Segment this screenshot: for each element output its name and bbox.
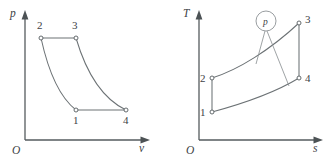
ts-callout-leader-right bbox=[267, 31, 289, 86]
ts-state-label-3: 3 bbox=[305, 13, 311, 25]
ts-callout-leader-left bbox=[256, 31, 265, 64]
pv-state-marker-2 bbox=[39, 36, 43, 40]
pv-state-label-4: 4 bbox=[123, 114, 129, 126]
figure-root: p v O 2 3 1 4 bbox=[0, 0, 333, 159]
ts-state-marker-3 bbox=[297, 21, 301, 25]
pv-process-3-4 bbox=[76, 38, 126, 110]
pv-state-marker-4 bbox=[124, 108, 128, 112]
pv-process-2-1 bbox=[41, 38, 76, 110]
ts-y-axis-arrowhead bbox=[196, 10, 203, 20]
ts-state-label-2: 2 bbox=[200, 72, 206, 84]
pv-canvas: p v O 2 3 1 4 bbox=[0, 0, 167, 159]
pv-state-label-1: 1 bbox=[73, 114, 79, 126]
ts-process-1-4 bbox=[212, 78, 299, 112]
temperature-entropy-diagram: T s O p 2 1 3 4 bbox=[166, 0, 333, 159]
ts-state-marker-4 bbox=[297, 76, 301, 80]
pv-origin-label: O bbox=[12, 144, 21, 156]
ts-state-label-1: 1 bbox=[200, 106, 206, 118]
ts-callout-label: p bbox=[262, 17, 268, 27]
pv-state-label-3: 3 bbox=[72, 19, 78, 31]
pv-y-axis-arrowhead bbox=[22, 10, 29, 20]
pv-state-marker-1 bbox=[74, 108, 78, 112]
ts-canvas: T s O p 2 1 3 4 bbox=[166, 0, 333, 159]
pressure-volume-diagram: p v O 2 3 1 4 bbox=[0, 0, 167, 159]
pv-y-axis-label: p bbox=[9, 7, 16, 20]
ts-origin-label: O bbox=[186, 144, 195, 156]
ts-state-marker-2 bbox=[210, 76, 214, 80]
pv-state-marker-3 bbox=[74, 36, 78, 40]
ts-state-label-4: 4 bbox=[305, 72, 311, 84]
ts-y-axis-label: T bbox=[183, 7, 191, 19]
pv-x-axis-label: v bbox=[139, 142, 145, 154]
pv-state-label-2: 2 bbox=[37, 19, 43, 31]
ts-process-2-3 bbox=[212, 23, 299, 78]
ts-x-axis-label: s bbox=[313, 142, 318, 154]
ts-state-marker-1 bbox=[210, 110, 214, 114]
